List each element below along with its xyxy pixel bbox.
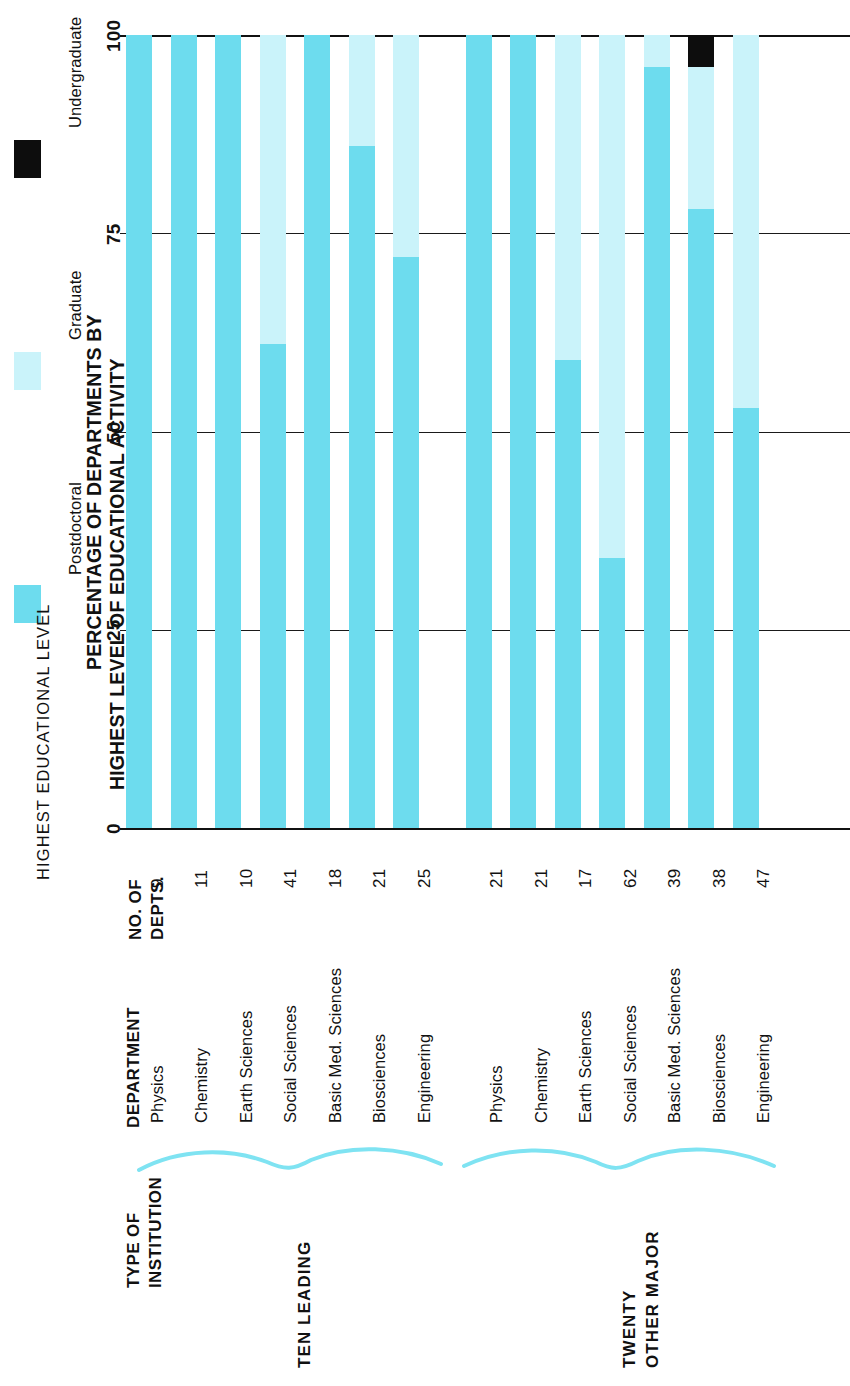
bar-7[interactable] xyxy=(393,35,419,828)
legend-swatch-undergraduate xyxy=(14,140,41,178)
bar-segment-postdoctoral xyxy=(555,360,581,828)
department-name-10: Earth Sciences xyxy=(576,1011,595,1123)
department-name-9: Chemistry xyxy=(532,1048,551,1123)
column-header-institution-line2: INSTITUTION xyxy=(146,1177,166,1288)
depts-count-8: 21 xyxy=(487,869,507,888)
depts-count-13: 38 xyxy=(710,869,730,888)
bar-segment-postdoctoral xyxy=(349,146,375,828)
group-brace-twenty-other-major xyxy=(460,1140,780,1180)
bar-11[interactable] xyxy=(599,35,625,828)
bar-9[interactable] xyxy=(510,35,536,828)
legend-label-undergraduate: Undergraduate xyxy=(66,17,85,128)
depts-count-1: 9 xyxy=(148,878,168,888)
depts-count-2: 11 xyxy=(192,870,212,888)
bar-segment-graduate xyxy=(555,35,581,360)
column-header-institution-line1: TYPE OF xyxy=(124,1212,144,1288)
depts-count-5: 18 xyxy=(326,869,346,888)
group-label-other-major: OTHER MAJOR xyxy=(643,1230,663,1368)
bar-segment-graduate xyxy=(644,35,670,67)
depts-count-6: 21 xyxy=(370,869,390,888)
bar-segment-postdoctoral xyxy=(688,209,714,828)
department-name-1: Physics xyxy=(148,1065,167,1123)
group-label-twenty: TWENTY xyxy=(620,1290,640,1368)
depts-count-3: 10 xyxy=(237,869,257,888)
bar-8[interactable] xyxy=(466,35,492,828)
bar-5[interactable] xyxy=(304,35,330,828)
bar-segment-postdoctoral xyxy=(733,408,759,828)
department-name-8: Physics xyxy=(487,1065,506,1123)
bar-segment-postdoctoral xyxy=(466,35,492,828)
axis-title-line-1: PERCENTAGE OF DEPARTMENTS BY xyxy=(83,314,106,670)
legend-swatch-graduate xyxy=(14,352,41,390)
bar-segment-postdoctoral xyxy=(260,344,286,828)
depts-count-4: 41 xyxy=(281,869,301,888)
department-name-13: Biosciences xyxy=(710,1034,729,1123)
bar-4[interactable] xyxy=(260,35,286,828)
bar-segment-graduate xyxy=(733,35,759,408)
department-name-7: Engineering xyxy=(415,1034,434,1123)
bar-6[interactable] xyxy=(349,35,375,828)
axis-baseline xyxy=(120,828,850,830)
bar-segment-undergraduate xyxy=(688,35,714,67)
legend-title: HIGHEST EDUCATIONAL LEVEL xyxy=(34,603,53,880)
department-name-5: Basic Med. Sciences xyxy=(326,968,345,1123)
department-name-3: Earth Sciences xyxy=(237,1011,256,1123)
bar-1[interactable] xyxy=(126,35,152,828)
department-name-11: Social Sciences xyxy=(621,1005,640,1123)
group-brace-ten-leading xyxy=(135,1140,445,1180)
department-name-2: Chemistry xyxy=(192,1048,211,1123)
bar-14[interactable] xyxy=(733,35,759,828)
depts-count-9: 21 xyxy=(532,869,552,888)
bar-segment-postdoctoral xyxy=(599,558,625,828)
bar-segment-postdoctoral xyxy=(304,35,330,828)
bar-12[interactable] xyxy=(644,35,670,828)
bar-2[interactable] xyxy=(171,35,197,828)
depts-count-11: 62 xyxy=(621,869,641,888)
bar-segment-postdoctoral xyxy=(126,35,152,828)
bar-segment-postdoctoral xyxy=(393,257,419,828)
group-label-ten-leading: TEN LEADING xyxy=(295,1241,315,1368)
depts-count-7: 25 xyxy=(415,869,435,888)
department-name-14: Engineering xyxy=(754,1034,773,1123)
column-header-depts-line1: NO. OF xyxy=(126,879,146,940)
bar-10[interactable] xyxy=(555,35,581,828)
bar-segment-graduate xyxy=(260,35,286,344)
depts-count-14: 47 xyxy=(754,869,774,888)
bar-3[interactable] xyxy=(215,35,241,828)
depts-count-12: 39 xyxy=(665,869,685,888)
department-name-12: Basic Med. Sciences xyxy=(665,968,684,1123)
bar-segment-graduate xyxy=(688,67,714,210)
bar-segment-postdoctoral xyxy=(644,67,670,828)
depts-count-10: 17 xyxy=(576,869,596,888)
bar-segment-postdoctoral xyxy=(215,35,241,828)
bar-13[interactable] xyxy=(688,35,714,828)
plot-area xyxy=(120,35,850,828)
department-name-4: Social Sciences xyxy=(281,1005,300,1123)
bar-segment-postdoctoral xyxy=(171,35,197,828)
column-header-department: DEPARTMENT xyxy=(124,1007,144,1128)
bar-segment-graduate xyxy=(599,35,625,558)
department-name-6: Biosciences xyxy=(370,1034,389,1123)
bar-segment-graduate xyxy=(349,35,375,146)
bar-segment-graduate xyxy=(393,35,419,257)
bar-segment-postdoctoral xyxy=(510,35,536,828)
